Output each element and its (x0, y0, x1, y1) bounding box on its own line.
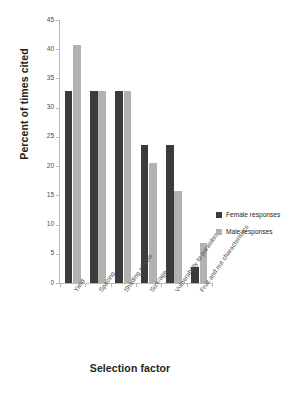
bar-male (174, 191, 182, 283)
y-axis-tick-label: 5 (34, 250, 54, 257)
legend-swatch-icon (216, 212, 222, 218)
y-axis-tick-label: 25 (34, 133, 54, 140)
legend-label: Male responses (226, 228, 273, 235)
y-axis-tick-label: 35 (34, 75, 54, 82)
bar-female (90, 91, 98, 283)
x-axis-tick-mark (187, 283, 188, 287)
x-axis-tick-mark (161, 283, 162, 287)
x-axis-tick-mark (60, 283, 61, 287)
y-axis-title: Percent of times cited (18, 34, 30, 174)
x-axis-tick-mark (136, 283, 137, 287)
y-axis-tick-label: 0 (34, 280, 54, 287)
bar-female (166, 145, 174, 284)
y-axis-tick-label: 10 (34, 221, 54, 228)
plot-area: 051015202530354045 YieldSpacingShading e… (60, 20, 212, 283)
bar-female (115, 91, 123, 283)
legend-label: Female responses (226, 211, 280, 218)
y-axis-tick-label: 45 (34, 17, 54, 24)
y-axis-tick-label: 15 (34, 192, 54, 199)
bar-group (111, 20, 136, 283)
bar-chart-figure: Percent of times cited 05101520253035404… (0, 0, 302, 396)
x-axis-tick-mark (212, 283, 213, 287)
bar-group (136, 20, 161, 283)
legend-item: Male responses (216, 228, 280, 235)
y-axis-tick-label: 20 (34, 163, 54, 170)
bar-male (98, 91, 106, 283)
bar-female (65, 91, 73, 283)
bar-group (60, 20, 85, 283)
x-axis-tick-mark (85, 283, 86, 287)
y-axis-tick-label: 40 (34, 46, 54, 53)
bar-male (149, 163, 157, 283)
chart-legend: Female responsesMale responses (216, 211, 280, 245)
legend-swatch-icon (216, 229, 222, 235)
x-axis-tick-mark (111, 283, 112, 287)
legend-item: Female responses (216, 211, 280, 218)
bar-group (161, 20, 186, 283)
y-axis-tick-label: 30 (34, 104, 54, 111)
x-axis-title: Selection factor (40, 362, 220, 374)
bar-group (85, 20, 110, 283)
bar-male (73, 45, 81, 283)
bar-male (124, 91, 132, 283)
